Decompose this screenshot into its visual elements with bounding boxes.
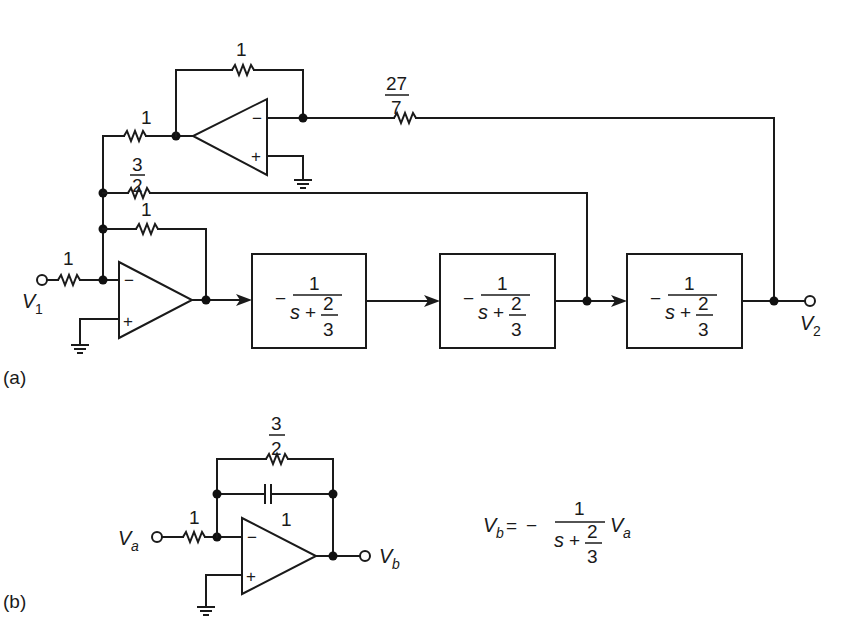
- resistor-inverter-feedback-label: 1: [236, 39, 247, 60]
- svg-text:+: +: [305, 302, 316, 323]
- resistor-inverter-input-label: 1: [141, 107, 152, 128]
- resistor-b-input: [183, 532, 205, 542]
- opamp-minus-pin: −: [124, 271, 134, 290]
- transfer-equation: V b = − 1 s + 2 3 V a: [483, 498, 631, 567]
- svg-text:s: s: [665, 301, 675, 323]
- ground-icon: [294, 180, 312, 188]
- ground-icon: [71, 345, 89, 353]
- resistor-input-label: 1: [63, 248, 74, 269]
- svg-text:s: s: [290, 301, 300, 323]
- opamp-plus-pin: +: [123, 312, 133, 331]
- svg-text:1: 1: [574, 498, 585, 519]
- svg-text:3: 3: [587, 546, 598, 567]
- svg-text:−: −: [463, 288, 474, 309]
- inverter-minus-pin: −: [252, 109, 262, 128]
- svg-text:−: −: [526, 515, 537, 536]
- v1-subscript: 1: [35, 301, 43, 317]
- part-b: V a 1 − + 3 2 1: [3, 413, 631, 615]
- svg-text:a: a: [623, 525, 631, 541]
- part-a: 1 V 1 − + 1 3: [3, 39, 821, 388]
- svg-text:2: 2: [698, 293, 709, 314]
- svg-text:1: 1: [497, 273, 508, 294]
- vb-subscript: b: [392, 556, 400, 572]
- node: [770, 297, 779, 306]
- node: [99, 276, 108, 285]
- resistor-b-input-label: 1: [189, 507, 200, 528]
- svg-text:=: =: [506, 515, 517, 536]
- node: [583, 297, 592, 306]
- resistor-b-feedback-den: 2: [271, 438, 282, 459]
- svg-text:+: +: [569, 530, 580, 551]
- resistor-inverter-feedback: [232, 65, 254, 75]
- input-terminal-va: [152, 532, 162, 542]
- resistor-three-halves-num: 3: [132, 154, 143, 175]
- resistor-output-feedback-den: 7: [391, 97, 402, 118]
- svg-text:2: 2: [587, 521, 598, 542]
- resistor-output-feedback-num: 27: [386, 73, 407, 94]
- svg-text:3: 3: [698, 319, 709, 340]
- node: [329, 490, 338, 499]
- svg-text:b: b: [496, 525, 504, 541]
- resistor-input: [58, 275, 80, 285]
- resistor-three-halves-den: 2: [132, 175, 143, 196]
- inverter-plus-pin: +: [251, 147, 261, 166]
- opamp-b-plus-pin: +: [246, 567, 256, 586]
- transfer-block-2: − 1 s + 2 3: [440, 254, 555, 348]
- svg-text:−: −: [650, 288, 661, 309]
- node: [202, 296, 211, 305]
- transfer-block-3: − 1 s + 2 3: [627, 254, 742, 348]
- part-a-label: (a): [3, 367, 26, 388]
- svg-text:3: 3: [511, 319, 522, 340]
- svg-text:s: s: [478, 301, 488, 323]
- svg-text:1: 1: [684, 273, 695, 294]
- v2-subscript: 2: [813, 323, 821, 339]
- part-b-label: (b): [3, 591, 26, 612]
- node: [329, 552, 338, 561]
- opamp-b-minus-pin: −: [247, 528, 257, 547]
- svg-text:+: +: [493, 302, 504, 323]
- node: [299, 114, 308, 123]
- svg-text:s: s: [554, 529, 564, 551]
- svg-text:+: +: [680, 302, 691, 323]
- node: [213, 490, 222, 499]
- transfer-block-1: − 1 s + 2 3: [252, 254, 366, 348]
- circuit-diagram: 1 V 1 − + 1 3: [0, 0, 848, 642]
- svg-text:−: −: [275, 288, 286, 309]
- svg-text:2: 2: [323, 293, 334, 314]
- resistor-main-feedback: [136, 224, 158, 234]
- va-subscript: a: [131, 538, 139, 554]
- svg-text:1: 1: [309, 273, 320, 294]
- ground-icon: [197, 607, 215, 615]
- resistor-b-feedback-num: 3: [271, 413, 282, 434]
- svg-text:2: 2: [511, 293, 522, 314]
- resistor-inverter-input: [124, 131, 146, 141]
- output-terminal-vb: [360, 551, 370, 561]
- output-terminal-v2: [805, 296, 815, 306]
- resistor-main-feedback-label: 1: [141, 199, 152, 220]
- svg-text:3: 3: [323, 319, 334, 340]
- input-terminal-v1: [37, 275, 47, 285]
- capacitor-label: 1: [281, 509, 292, 530]
